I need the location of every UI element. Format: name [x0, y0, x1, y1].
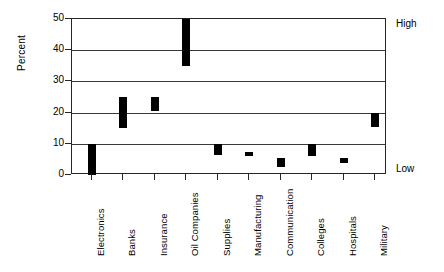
bar	[214, 144, 222, 155]
x-axis-tick-mark	[248, 174, 249, 180]
x-axis-category-label: Oil Companies	[189, 192, 200, 256]
y-axis-tick-label: 10	[40, 138, 64, 148]
y-axis-tick-label: 20	[40, 107, 64, 117]
x-axis-category-label: Colleges	[315, 218, 326, 256]
bar	[182, 19, 190, 66]
x-axis-category-label: Manufacturing	[252, 194, 263, 256]
bar	[151, 97, 159, 111]
bar	[371, 113, 379, 127]
annotation-high: High	[396, 18, 417, 29]
gridline	[72, 144, 385, 145]
x-axis-tick-mark	[280, 174, 281, 180]
y-axis-tick-label: 40	[40, 44, 64, 54]
y-axis-tick-label: 0	[40, 169, 64, 179]
x-axis-tick-mark	[374, 174, 375, 180]
x-axis-category-label: Supplies	[221, 219, 232, 256]
x-axis-tick-mark	[154, 174, 155, 180]
y-axis-title: Percent	[14, 18, 30, 88]
x-axis-category-label: Military	[378, 225, 389, 256]
x-axis-category-label: Electronics	[95, 208, 106, 256]
annotation-low: Low	[396, 163, 414, 174]
bar	[245, 152, 253, 157]
chart-figure: Percent 01020304050 ElectronicsBanksInsu…	[0, 0, 444, 272]
x-axis-category-label: Insurance	[158, 213, 169, 256]
y-axis-tick-label: 50	[40, 13, 64, 23]
x-axis-tick-mark	[311, 174, 312, 180]
bar	[340, 158, 348, 163]
x-axis-category-label: Banks	[126, 229, 137, 256]
x-axis-tick-mark	[343, 174, 344, 180]
x-axis-category-label: Communication	[284, 189, 295, 256]
x-axis-tick-mark	[122, 174, 123, 180]
bar	[88, 144, 96, 175]
bar	[119, 97, 127, 128]
gridline	[72, 81, 385, 82]
x-axis-tick-mark	[185, 174, 186, 180]
bar	[277, 158, 285, 167]
gridline	[72, 50, 385, 51]
x-axis-tick-mark	[217, 174, 218, 180]
y-axis-tick-label: 30	[40, 75, 64, 85]
plot-area	[71, 18, 386, 174]
x-axis-category-label: Hospitals	[347, 216, 358, 256]
y-axis-tick-mark	[65, 174, 71, 175]
bar	[308, 144, 316, 156]
x-axis-tick-mark	[91, 174, 92, 180]
